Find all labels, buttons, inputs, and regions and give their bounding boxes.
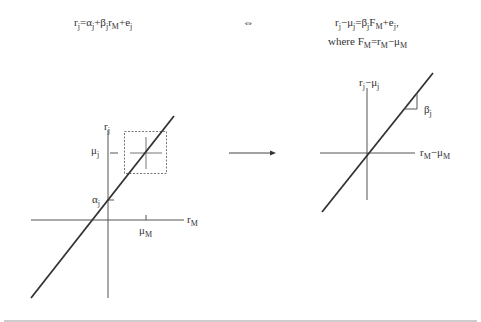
mu-M-label: μM: [139, 224, 152, 239]
left-y-axis-label: rj: [104, 120, 110, 135]
sub: M: [191, 219, 198, 228]
sub: j: [377, 82, 379, 91]
left-x-axis-label: rM: [187, 213, 198, 228]
mu-j-label: μj: [91, 144, 99, 159]
sub: j: [98, 199, 100, 208]
sub: M: [145, 230, 152, 239]
sub: M: [424, 152, 431, 161]
slope-beta-label: βj: [424, 103, 432, 118]
transform-arrow: [229, 151, 276, 156]
diagram-canvas: [0, 0, 481, 322]
right-regression-line: [322, 73, 433, 212]
sub: M: [443, 152, 450, 161]
sub: j: [108, 126, 110, 135]
right-x-axis-label: rM−μM: [420, 146, 450, 161]
alpha-j-label: αj: [92, 193, 100, 208]
sub: j: [97, 150, 99, 159]
left-regression-line: [31, 116, 174, 298]
left-plot: [31, 116, 184, 298]
sub: j: [430, 109, 432, 118]
right-y-axis-label: rj−μj: [359, 76, 379, 91]
right-plot: [320, 73, 433, 212]
